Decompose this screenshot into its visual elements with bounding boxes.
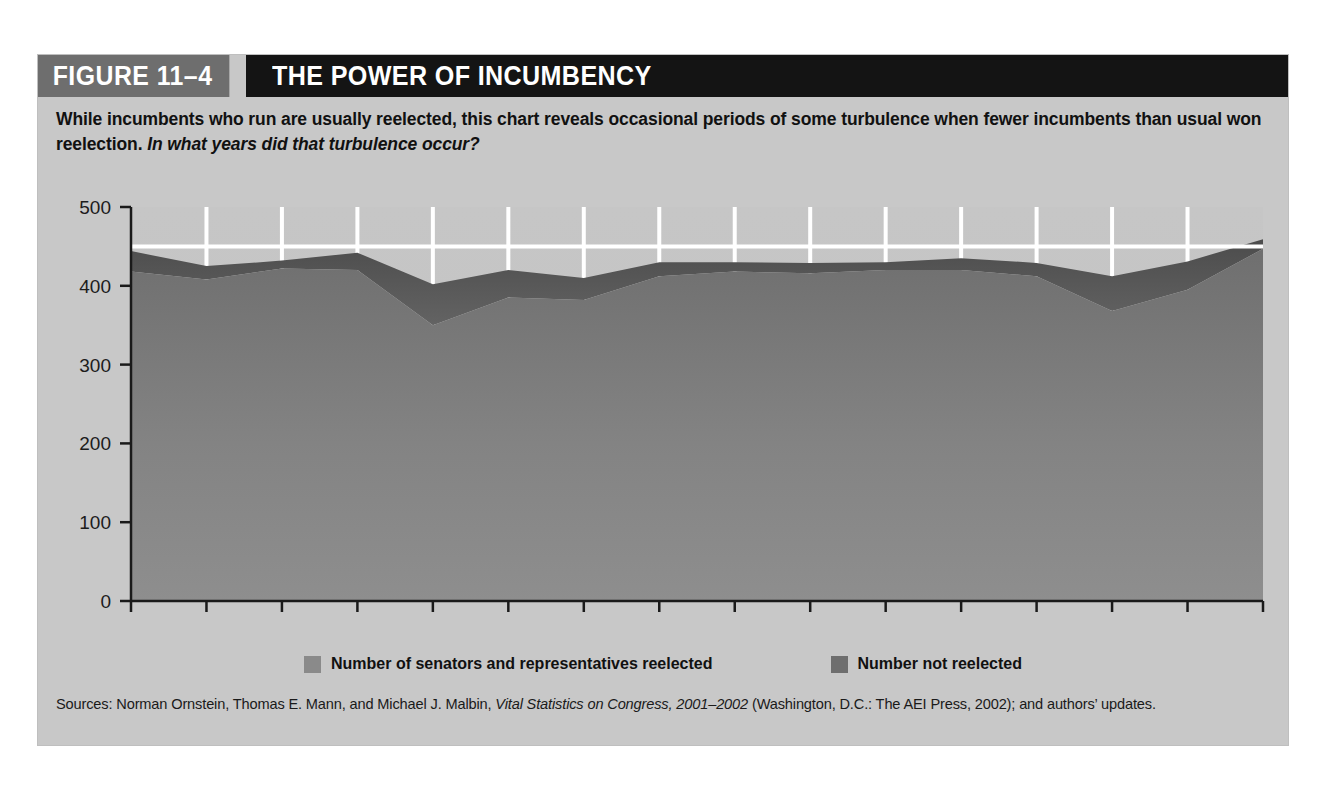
series-areas-group (131, 239, 1263, 601)
y-axis-tick-labels: 0100200300400500 (79, 197, 111, 612)
legend-swatch-not-reelected (831, 656, 848, 673)
legend-label-reelected: Number of senators and representatives r… (331, 655, 712, 673)
subtitle-question-text: In what years did that turbulence occur? (147, 134, 479, 154)
y-tick-label: 500 (79, 197, 111, 218)
source-title-italic: Vital Statistics on Congress, 2001–2002 (495, 696, 748, 712)
figure-title: THE POWER OF INCUMBENCY (272, 61, 652, 92)
y-tick-label: 100 (79, 512, 111, 533)
chart-legend: Number of senators and representatives r… (38, 655, 1288, 673)
y-tick-label: 0 (100, 591, 111, 612)
legend-swatch-reelected (304, 656, 321, 673)
figure-source-note: Sources: Norman Ornstein, Thomas E. Mann… (56, 695, 1274, 715)
y-tick-label: 300 (79, 355, 111, 376)
y-tick-label: 200 (79, 433, 111, 454)
figure-header: FIGURE 11–4 THE POWER OF INCUMBENCY (38, 55, 1288, 97)
figure-title-bar: THE POWER OF INCUMBENCY (246, 55, 1288, 97)
y-tick-label: 400 (79, 276, 111, 297)
source-suffix: (Washington, D.C.: The AEI Press, 2002);… (748, 696, 1156, 712)
area-chart-svg: 0100200300400500 19841986198819901992199… (56, 195, 1271, 615)
legend-item-reelected: Number of senators and representatives r… (304, 655, 712, 673)
chart-plot-area: 0100200300400500 19841986198819901992199… (56, 195, 1271, 615)
source-prefix: Sources: Norman Ornstein, Thomas E. Mann… (56, 696, 495, 712)
legend-item-not-reelected: Number not reelected (831, 655, 1022, 673)
figure-container: FIGURE 11–4 THE POWER OF INCUMBENCY Whil… (38, 55, 1288, 745)
figure-subtitle: While incumbents who run are usually ree… (56, 107, 1271, 157)
figure-number-badge: FIGURE 11–4 (38, 55, 229, 97)
legend-label-not-reelected: Number not reelected (858, 655, 1022, 673)
